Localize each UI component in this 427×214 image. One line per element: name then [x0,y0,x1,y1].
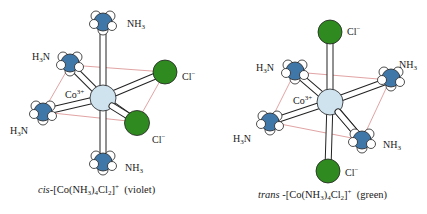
cis-cl-upper-right [153,60,177,84]
trans-label-co: Co3+ [293,96,312,106]
trans-caption: trans -[Co(NH3)4Cl2]+ (green) [258,189,387,200]
trans-molecule [257,20,405,183]
cis-nh3-left [30,101,57,125]
trans-label-nh3-upper-right: NH3 [399,60,417,70]
cis-label-h3n-left: H3N [10,126,28,136]
trans-nh3-left [257,111,284,135]
cis-caption: cis-[Co(NH3)4Cl2]+ (violet) [38,184,155,195]
cis-label-nh3-bottom: NH3 [125,163,143,173]
cis-nh3-bottom [90,151,117,175]
trans-label-nh3-lower-right: NH3 [383,140,401,150]
cis-label-h3n-upper-left: H3N [32,52,50,62]
trans-label-h3n-upper-left: H3N [256,63,274,73]
trans-label-cl-bottom: Cl− [345,168,358,178]
cis-molecule [30,11,178,175]
cis-label-cl-upper: Cl− [182,72,195,82]
cis-nh3-top [90,11,117,35]
cis-label-nh3-top: NH3 [127,19,145,29]
molecule-diagrams [0,0,427,214]
trans-nh3-upper-right [378,67,405,91]
trans-label-cl-top: Cl− [347,27,360,37]
trans-cl-top [318,20,342,44]
cis-label-co: Co3+ [65,90,84,100]
trans-label-h3n-left: H3N [233,134,251,144]
trans-nh3-lower-right [349,129,376,153]
trans-cl-bottom [316,159,340,183]
cis-cl-lower-right [125,111,150,136]
cis-label-cl-lower: Cl− [152,135,165,145]
